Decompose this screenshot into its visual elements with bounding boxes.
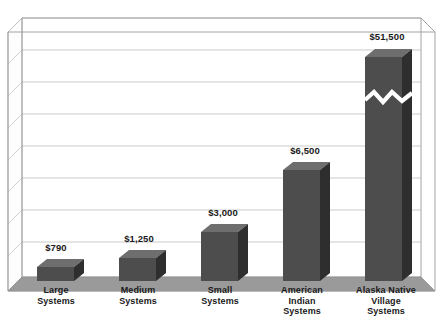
value-label-alaska-native-village-systems: $51,500: [356, 31, 418, 42]
chart-canvas: [0, 0, 442, 322]
category-label-small-systems: Small Systems: [186, 285, 254, 306]
bar-alaska-native-village-systems: [365, 49, 412, 281]
chart-left-wall: [8, 18, 22, 291]
category-label-large-systems: Large Systems: [22, 285, 90, 306]
bar-small-systems: [201, 224, 248, 281]
category-label-medium-systems: Medium Systems: [104, 285, 172, 306]
value-label-medium-systems: $1,250: [112, 233, 166, 244]
bar-medium-systems: [119, 250, 166, 281]
category-label-alaska-native-village-systems: Alaska Native Village Systems: [345, 285, 427, 317]
value-label-small-systems: $3,000: [196, 207, 250, 218]
bar-american-indian-systems: [283, 162, 330, 281]
category-label-american-indian-systems: American Indian Systems: [268, 285, 336, 317]
value-label-american-indian-systems: $6,500: [278, 145, 332, 156]
bar-chart: $790 $1,250 $3,000 $6,500 $51,500 Large …: [0, 0, 442, 322]
bar-large-systems: [37, 259, 84, 281]
value-label-large-systems: $790: [33, 242, 79, 253]
